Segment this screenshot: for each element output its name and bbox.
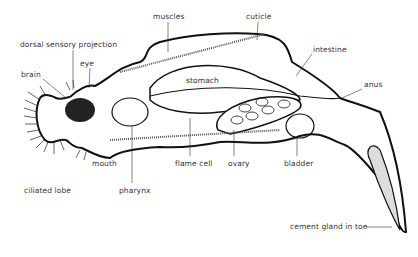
label-eye: eye [80, 60, 94, 68]
label-ovary: ovary [228, 160, 250, 168]
label-stomach: stomach [186, 77, 219, 85]
muscle-band [110, 130, 280, 140]
ciliated-lobe-shape [37, 95, 70, 142]
label-cement-gland-in-toe: cement gland in toe [290, 223, 367, 231]
label-brain: brain [21, 71, 41, 79]
label-ciliated-lobe: ciliated lobe [24, 187, 71, 195]
bladder-shape [286, 114, 314, 138]
label-mouth: mouth [92, 160, 117, 168]
label-cuticle: cuticle [246, 13, 271, 21]
label-dorsal-sensory-projection: dorsal sensory projection [20, 41, 117, 49]
ovary-shape [217, 97, 301, 134]
label-flame-cell: flame cell [175, 160, 213, 168]
label-bladder: bladder [284, 160, 313, 168]
label-pharynx: pharynx [119, 187, 151, 195]
pharynx-shape [112, 98, 148, 126]
label-anus: anus [364, 81, 382, 89]
rotifer-diagram [0, 0, 418, 257]
intestine-shape [150, 88, 340, 99]
label-intestine: intestine [313, 46, 347, 54]
label-muscles: muscles [153, 13, 184, 21]
eye-shape [65, 98, 95, 122]
